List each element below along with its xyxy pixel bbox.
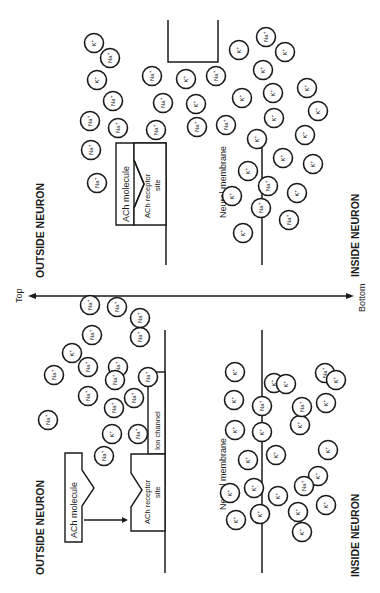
potassium-ion-icon: K+	[226, 421, 245, 440]
ach-molecule-label: ACh molecule	[121, 166, 131, 222]
sodium-ion-icon: Na+	[280, 211, 299, 230]
sodium-ion-icon: Na+	[131, 328, 150, 347]
inside-neuron-label: INSIDE NEURON	[349, 494, 361, 577]
sodium-ion-icon: Na+	[293, 398, 312, 417]
potassium-ion-icon: K+	[248, 130, 267, 149]
potassium-ion-icon: K+	[88, 71, 107, 90]
ion-channel-open-outline	[168, 20, 218, 62]
neuron-ach-diagram: Top Bottom OUTSIDE NEURON INSIDE NEURON …	[0, 0, 380, 593]
potassium-ion-icon: K+	[245, 479, 264, 498]
sodium-ion-icon: Na+	[39, 411, 58, 430]
outside-neuron-label: OUTSIDE NEURON	[34, 183, 46, 278]
sodium-ion-icon: Na+	[105, 399, 124, 418]
sodium-ion-icon: Na+	[129, 425, 148, 444]
receptor-label-line1: ACh receptor	[143, 173, 152, 218]
potassium-ion-icon: K+	[309, 102, 328, 121]
potassium-ion-icon: K+	[296, 126, 315, 145]
inside-neuron-label: INSIDE NEURON	[349, 194, 361, 277]
sodium-ion-icon: Na+	[95, 447, 114, 466]
sodium-ion-icon: Na+	[108, 298, 127, 317]
potassium-ion-icon: K+	[226, 363, 245, 382]
potassium-ion-icon: K+	[277, 375, 296, 394]
potassium-ion-icon: K+	[288, 184, 307, 203]
sodium-ion-icon: Na+	[109, 119, 128, 138]
sodium-ion-icon: Na+	[259, 177, 278, 196]
sodium-ion-icon: Na+	[79, 387, 98, 406]
potassium-ion-icon: K+	[233, 89, 252, 108]
potassium-ion-icon: K+	[291, 416, 310, 435]
sodium-ion-icon: Na+	[101, 49, 120, 68]
sodium-ion-icon: Na+	[106, 371, 125, 390]
potassium-ion-icon: K+	[230, 41, 249, 60]
sodium-ion-icon: Na+	[252, 199, 271, 218]
potassium-ion-icon: K+	[319, 441, 338, 460]
potassium-ion-icon: K+	[265, 109, 284, 128]
potassium-ion-icon: K+	[223, 187, 242, 206]
sodium-ion-icon: Na+	[188, 118, 207, 137]
sodium-ion-icon: Na+	[207, 67, 226, 86]
sodium-ion-icon: Na+	[154, 94, 173, 113]
binding-arrow-head-icon	[122, 517, 128, 523]
sodium-ion-icon: Na+	[79, 358, 98, 377]
potassium-ion-icon: K+	[289, 503, 308, 522]
potassium-ion-icon: K+	[317, 394, 336, 413]
membrane-label: Neural membrane	[218, 146, 228, 218]
potassium-ion-icon: K+	[85, 34, 104, 53]
potassium-ion-icon: K+	[63, 344, 82, 363]
arrow-head-bottom-icon	[346, 293, 354, 299]
sodium-ion-icon: Na+	[83, 326, 102, 345]
panel-closed-channel: OUTSIDE NEURON INSIDE NEURON Neural memb…	[34, 296, 361, 578]
panel-open-channel: OUTSIDE NEURON INSIDE NEURON Neural memb…	[34, 20, 361, 278]
ach-molecule-label: ACh molecule	[69, 482, 79, 538]
potassium-ion-icon: K+	[239, 451, 258, 470]
potassium-ion-icon: K+	[327, 371, 346, 390]
potassium-ion-icon: K+	[264, 84, 283, 103]
receptor-label-line1: ACh receptor	[143, 479, 152, 524]
potassium-ion-icon: K+	[234, 224, 253, 243]
potassium-ion-icon: K+	[267, 446, 286, 465]
potassium-ion-icon: K+	[103, 425, 122, 444]
sodium-ion-icon: Na+	[217, 116, 236, 135]
potassium-ion-icon: K+	[254, 61, 273, 80]
sodium-ion-icon: Na+	[147, 121, 166, 140]
potassium-ion-icon: K+	[225, 391, 244, 410]
sodium-ion-icon: Na+	[88, 174, 107, 193]
top-label: Top	[14, 288, 24, 303]
potassium-ion-icon: K+	[187, 95, 206, 114]
sodium-ion-icon: Na+	[295, 477, 314, 496]
sodium-ion-icon: Na+	[139, 368, 158, 387]
sodium-ion-icon: Na+	[257, 28, 276, 47]
sodium-ion-icon: Na+	[81, 296, 100, 315]
bottom-label: Bottom	[357, 283, 367, 312]
potassium-ion-icon: K+	[298, 79, 317, 98]
potassium-ion-icon: K+	[221, 484, 240, 503]
potassium-ion-icon: K+	[177, 70, 196, 89]
arrow-head-top-icon	[28, 293, 36, 299]
potassium-ion-icon: K+	[276, 43, 295, 62]
sodium-ion-icon: Na+	[82, 141, 101, 160]
potassium-ion-icon: K+	[239, 162, 258, 181]
potassium-ion-icon: K+	[274, 149, 293, 168]
outside-neuron-label: OUTSIDE NEURON	[34, 480, 46, 575]
ion-channel-label: Ion channel	[153, 411, 162, 450]
sodium-ion-icon: Na+	[131, 309, 150, 328]
top-bottom-axis: Top Bottom	[14, 283, 367, 312]
receptor-label-line2: site	[153, 486, 162, 498]
potassium-ion-icon: K+	[317, 496, 336, 515]
sodium-ion-icon: Na+	[81, 112, 100, 131]
potassium-ion-icon: K+	[251, 505, 270, 524]
sodium-ion-icon: Na+	[45, 366, 64, 385]
potassium-ion-icon: K+	[304, 155, 323, 174]
ion-group-closed: Na+Na+K+Na+Na+Na+Na+K+Na+Na+Na+Na+Na+Na+…	[39, 296, 346, 542]
potassium-ion-icon: K+	[253, 423, 272, 442]
sodium-ion-icon: Na+	[125, 389, 144, 408]
potassium-ion-icon: K+	[293, 523, 312, 542]
potassium-ion-icon: K+	[227, 511, 246, 530]
sodium-ion-icon: Na+	[253, 397, 272, 416]
sodium-ion-icon: Na+	[143, 67, 162, 86]
sodium-ion-icon: Na+	[104, 92, 123, 111]
receptor-label-line2: site	[153, 179, 162, 191]
potassium-ion-icon: K+	[269, 487, 288, 506]
